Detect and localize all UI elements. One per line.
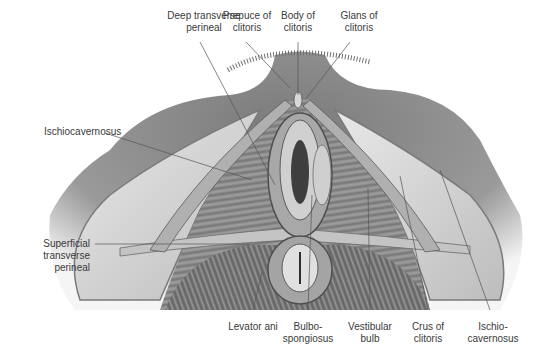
anatomy-figure: Deep transverse perineal Prepuce of clit… <box>0 0 549 356</box>
label-superficial-transverse-perineal: Superficial transverse perineal <box>10 238 90 274</box>
label-vestibular-bulb: Vestibular bulb <box>338 321 402 345</box>
label-body-of-clitoris: Body of clitoris <box>270 10 326 34</box>
perineum-illustration <box>0 0 549 356</box>
vestibular-bulb-shape <box>313 145 331 205</box>
label-glans-of-clitoris: Glans of clitoris <box>330 10 388 34</box>
label-ischiocavernosus-right: Ischio- cavernosus <box>458 321 528 345</box>
label-bulbospongiosus: Bulbo- spongiosus <box>276 321 340 345</box>
label-crus-of-clitoris: Crus of clitoris <box>400 321 456 345</box>
label-ischiocavernosus-left: Ischiocavernosus <box>44 126 154 138</box>
